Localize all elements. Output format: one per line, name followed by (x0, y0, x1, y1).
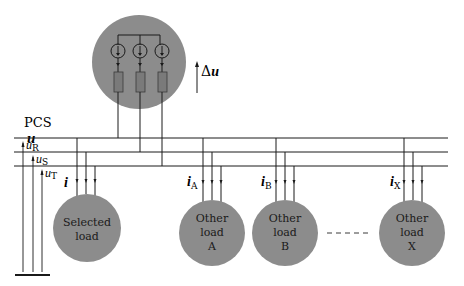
current-label-a: iA (187, 174, 198, 191)
delta-u-label: Δu (201, 63, 219, 79)
resistor-icon (158, 72, 167, 92)
pcs-unit (92, 15, 186, 109)
load-b: Other load B (252, 138, 318, 266)
resistor-icon (136, 72, 145, 92)
load-label-line2: load (200, 226, 224, 239)
load-label-line1: Other (196, 212, 229, 225)
phase-s-label: uS (36, 152, 48, 167)
current-label-b: iB (261, 174, 272, 191)
pcs-label: PCS (24, 115, 52, 130)
three-phase-bus (14, 138, 448, 166)
load-label-line2: load (400, 226, 424, 239)
load-label-line1: Selected (63, 216, 111, 229)
current-label-x: iX (390, 174, 401, 191)
load-label-line1: Other (396, 212, 429, 225)
diagram-canvas: Δu PCS u uR uS uT Selected load i (0, 0, 464, 286)
resistor-icon (114, 72, 123, 92)
load-x: Other load X (379, 138, 445, 266)
load-label-line3: X (408, 240, 416, 253)
load-selected: Selected load (53, 138, 121, 262)
load-label-line2: load (273, 226, 297, 239)
current-label-selected: i (64, 175, 68, 190)
load-label-line3: B (281, 240, 289, 253)
load-label-line2: load (75, 230, 99, 243)
load-label-line1: Other (269, 212, 302, 225)
load-a: Other load A (179, 138, 245, 266)
delta-u-arrow-icon (195, 61, 199, 93)
load-label-line3: A (207, 240, 217, 253)
phase-t-label: uT (45, 166, 57, 181)
